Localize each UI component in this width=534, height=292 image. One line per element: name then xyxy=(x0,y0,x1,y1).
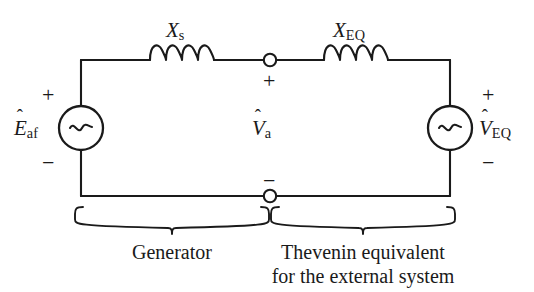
brace-generator xyxy=(75,207,269,234)
terminal-minus-sign: − xyxy=(263,170,275,192)
circuit-diagram-figure: Xs XEQ ˆEaf + − ˆVEQ + − + ˆVa − Generat… xyxy=(0,0,534,292)
left-source-hat-accent: ˆ xyxy=(17,107,23,125)
generator-caption: Generator xyxy=(122,240,222,264)
terminal-voltage-label: ˆVa xyxy=(252,118,271,140)
right-source-label: ˆVEQ xyxy=(479,118,511,140)
reactance-xeq-subscript: EQ xyxy=(346,27,365,43)
inductor-xeq-coils xyxy=(324,45,388,60)
reactance-xs-subscript: s xyxy=(179,27,185,43)
thevenin-caption-line1: Thevenin equivalent xyxy=(263,240,463,264)
right-source-subscript: EQ xyxy=(492,125,511,141)
left-source-symbol-with-hat: ˆE xyxy=(14,118,27,139)
reactance-xeq-symbol: X xyxy=(333,18,346,42)
right-source-plus-sign: + xyxy=(482,84,494,106)
terminal-subscript: a xyxy=(265,125,272,141)
right-source-minus-sign: − xyxy=(482,152,494,174)
right-source-hat-accent: ˆ xyxy=(482,107,488,125)
terminal-hat-accent: ˆ xyxy=(255,107,261,125)
left-source-minus-sign: − xyxy=(42,152,54,174)
inductor-xs-coils xyxy=(150,45,214,60)
brace-thevenin xyxy=(271,207,455,234)
right-source-symbol-with-hat: ˆV xyxy=(479,118,492,139)
left-source-subscript: af xyxy=(27,125,38,141)
thevenin-caption-line2: for the external system xyxy=(263,264,463,288)
left-source-plus-sign: + xyxy=(42,84,54,106)
terminal-plus-sign: + xyxy=(263,70,275,92)
reactance-xs-label: Xs xyxy=(166,20,185,42)
thevenin-caption: Thevenin equivalent for the external sys… xyxy=(263,240,463,289)
left-source-label: ˆEaf xyxy=(14,118,38,140)
terminal-node-top xyxy=(264,54,276,66)
terminal-symbol-with-hat: ˆV xyxy=(252,118,265,139)
reactance-xs-symbol: X xyxy=(166,18,179,42)
reactance-xeq-label: XEQ xyxy=(333,20,365,42)
